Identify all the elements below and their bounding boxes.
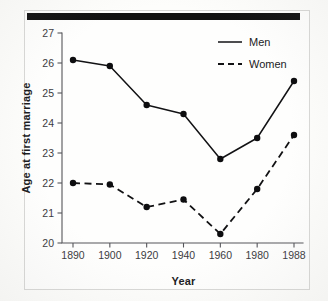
x-tick-label: 1980 bbox=[245, 249, 269, 261]
data-point-women bbox=[217, 231, 223, 237]
y-tick-label: 24 bbox=[42, 117, 54, 129]
x-tick-label: 1920 bbox=[135, 249, 159, 261]
figure-page: 2021222324252627189019001920194019601980… bbox=[0, 0, 328, 301]
chart-legend: MenWomen bbox=[218, 36, 287, 70]
y-tick-label: 22 bbox=[42, 177, 54, 189]
data-point-women bbox=[107, 181, 113, 187]
chart-series bbox=[70, 57, 297, 237]
data-point-men bbox=[107, 63, 113, 69]
data-point-men bbox=[180, 111, 186, 117]
legend-label-women: Women bbox=[249, 58, 287, 70]
data-point-men bbox=[291, 78, 297, 84]
line-chart: 2021222324252627189019001920194019601980… bbox=[0, 0, 328, 301]
y-tick-label: 27 bbox=[42, 27, 54, 39]
series-line-men bbox=[73, 60, 294, 159]
data-point-men bbox=[70, 57, 76, 63]
y-tick-label: 25 bbox=[42, 87, 54, 99]
y-tick-label: 20 bbox=[42, 237, 54, 249]
data-point-women bbox=[254, 186, 260, 192]
x-axis-title: Year bbox=[171, 275, 196, 287]
data-point-women bbox=[291, 132, 297, 138]
x-tick-label: 1900 bbox=[98, 249, 122, 261]
legend-label-men: Men bbox=[249, 36, 270, 48]
x-tick-label: 1890 bbox=[61, 249, 85, 261]
y-tick-label: 21 bbox=[42, 207, 54, 219]
series-line-women bbox=[73, 135, 294, 234]
y-tick-label: 26 bbox=[42, 57, 54, 69]
data-point-men bbox=[217, 156, 223, 162]
data-point-women bbox=[180, 196, 186, 202]
y-axis-title: Age at first marriage bbox=[20, 82, 32, 193]
data-point-women bbox=[70, 180, 76, 186]
data-point-women bbox=[143, 204, 149, 210]
y-tick-label: 23 bbox=[42, 147, 54, 159]
x-tick-label: 1940 bbox=[172, 249, 196, 261]
x-tick-label: 1988 bbox=[282, 249, 306, 261]
x-tick-label: 1960 bbox=[209, 249, 233, 261]
data-point-men bbox=[254, 135, 260, 141]
data-point-men bbox=[143, 102, 149, 108]
